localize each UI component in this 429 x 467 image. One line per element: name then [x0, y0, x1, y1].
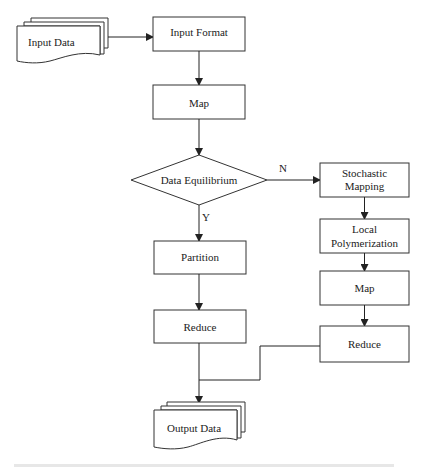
output-data-label: Output Data — [167, 422, 221, 434]
map-right-node: Map — [320, 271, 409, 305]
output-data-node: Output Data — [154, 402, 245, 449]
flowchart-canvas: Input Data Input Format Map Data Equilib… — [0, 0, 429, 467]
input-data-node: Input Data — [17, 18, 108, 63]
input-format-label: Input Format — [170, 26, 228, 38]
map-label: Map — [189, 97, 210, 109]
reduce-right-label: Reduce — [348, 338, 381, 350]
local-polymerization-node: Local Polymerization — [320, 219, 409, 253]
input-data-label: Input Data — [28, 36, 75, 48]
edge-label-yes: Y — [202, 211, 210, 223]
partition-label: Partition — [181, 251, 219, 263]
input-format-node: Input Format — [153, 17, 245, 51]
reduce-right-node: Reduce — [320, 326, 409, 362]
map-node: Map — [153, 85, 245, 119]
map-right-label: Map — [354, 282, 375, 294]
edge-label-no: N — [279, 162, 287, 174]
data-equilibrium-label: Data Equilibrium — [161, 174, 238, 186]
reduce-left-node: Reduce — [154, 310, 246, 343]
local-polymerization-label-line1: Local — [352, 223, 377, 235]
data-equilibrium-node: Data Equilibrium — [131, 155, 267, 205]
stochastic-mapping-label-line1: Stochastic — [342, 167, 387, 179]
reduce-left-label: Reduce — [184, 321, 217, 333]
edge-reduce-right-to-merge — [199, 346, 320, 380]
local-polymerization-label-line2: Polymerization — [331, 237, 399, 249]
partition-node: Partition — [154, 241, 246, 274]
stochastic-mapping-node: Stochastic Mapping — [320, 163, 409, 197]
stochastic-mapping-label-line2: Mapping — [345, 180, 385, 192]
